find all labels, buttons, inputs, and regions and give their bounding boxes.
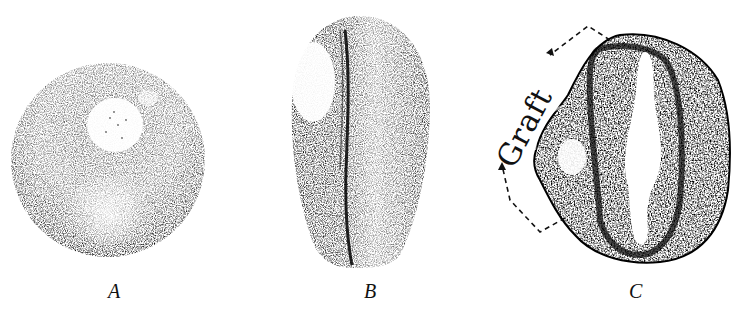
panel-label-c: C bbox=[629, 280, 642, 303]
graft-patch bbox=[87, 98, 143, 152]
notochord bbox=[558, 139, 586, 175]
panel-label-b: B bbox=[364, 280, 376, 303]
embryo-a-illustration bbox=[0, 0, 250, 315]
panel-b: B bbox=[250, 0, 480, 315]
panel-label-a: A bbox=[108, 280, 120, 303]
embryo-b-illustration bbox=[250, 0, 480, 315]
graft-patch bbox=[291, 42, 335, 122]
panel-a: A bbox=[0, 0, 250, 315]
panel-c: Graft C bbox=[480, 0, 732, 315]
